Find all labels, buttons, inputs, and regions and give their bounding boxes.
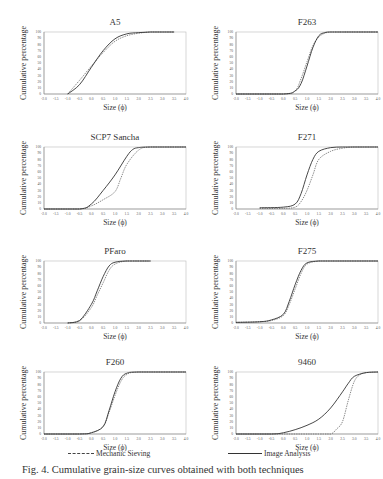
y-tick-label: 90: [37, 151, 41, 155]
chart-title: F275: [298, 246, 317, 256]
series-line-image-analysis: [260, 147, 378, 208]
y-tick-label: 70: [37, 389, 41, 393]
chart-title: F260: [106, 357, 125, 367]
x-tick-label: 0.5: [293, 326, 298, 330]
y-tick-label: 90: [37, 376, 41, 380]
x-tick-label: 0.0: [89, 437, 94, 441]
chart-title: 9460: [298, 357, 317, 367]
y-axis-label: Cumulative percentage: [211, 26, 220, 100]
y-tick-label: 10: [37, 315, 41, 319]
y-tick-label: 50: [37, 176, 41, 180]
series-line-mechanic-sieving: [236, 32, 378, 94]
x-tick-label: -1.5: [245, 326, 251, 330]
series-line-image-analysis: [236, 32, 378, 94]
x-tick-label: 1.5: [125, 97, 130, 101]
x-tick-label: -0.5: [77, 212, 83, 216]
x-tick-label: 4.0: [376, 326, 381, 330]
series-line-image-analysis: [68, 261, 151, 323]
x-tick-label: -0.5: [77, 326, 83, 330]
y-tick-label: 50: [37, 61, 41, 65]
x-tick-label: 3.5: [364, 212, 369, 216]
x-tick-label: 2.0: [328, 326, 333, 330]
x-tick-label: 0.0: [281, 212, 286, 216]
y-tick-label: 70: [229, 49, 233, 53]
x-tick-label: 3.0: [352, 97, 357, 101]
y-tick-label: 70: [229, 164, 233, 168]
series-line-mechanic-sieving: [236, 261, 378, 322]
y-tick-label: 60: [229, 395, 233, 399]
x-tick-label: 2.0: [136, 97, 141, 101]
x-tick-label: 0.0: [281, 326, 286, 330]
y-tick-label: 70: [37, 164, 41, 168]
y-axis-label: Cumulative percentage: [19, 141, 28, 215]
x-tick-label: 0.5: [293, 97, 298, 101]
y-tick-label: 90: [229, 376, 233, 380]
x-tick-label: 3.0: [352, 212, 357, 216]
x-tick-label: -1.0: [65, 97, 71, 101]
x-tick-label: 4.0: [184, 326, 189, 330]
chart-panel: F2750102030405060708090100-2.0-1.5-1.0-0…: [192, 229, 382, 343]
legend-label: Mechanic Sieving: [96, 449, 150, 458]
x-tick-label: -1.5: [245, 212, 251, 216]
y-tick-label: 60: [229, 55, 233, 59]
plot-frame: [44, 372, 186, 434]
y-axis-label: Cumulative percentage: [19, 255, 28, 329]
x-tick-label: -0.5: [269, 437, 275, 441]
y-tick-label: 60: [37, 284, 41, 288]
x-tick-label: 2.5: [148, 97, 153, 101]
y-tick-label: 60: [37, 170, 41, 174]
y-tick-label: 0: [39, 432, 41, 436]
x-tick-label: 2.5: [340, 326, 345, 330]
y-tick-label: 40: [37, 182, 41, 186]
y-tick-label: 80: [229, 383, 233, 387]
series-line-image-analysis: [236, 261, 378, 322]
x-tick-label: 1.5: [317, 212, 322, 216]
y-tick-label: 50: [229, 61, 233, 65]
x-tick-label: 1.5: [125, 212, 130, 216]
y-tick-label: 20: [37, 309, 41, 313]
chart-svg: F2750102030405060708090100-2.0-1.5-1.0-0…: [192, 229, 382, 343]
figure-caption: Fig. 4. Cumulative grain-size curves obt…: [22, 464, 304, 475]
solid-line-swatch: [228, 453, 262, 454]
x-tick-label: -2.0: [41, 212, 47, 216]
y-tick-label: 20: [37, 420, 41, 424]
x-tick-label: -2.0: [233, 326, 239, 330]
y-tick-label: 40: [37, 407, 41, 411]
x-tick-label: -1.5: [53, 97, 59, 101]
x-tick-label: 3.5: [172, 97, 177, 101]
x-tick-label: 1.5: [125, 437, 130, 441]
y-tick-label: 0: [231, 321, 233, 325]
x-tick-label: 0.5: [293, 212, 298, 216]
x-tick-label: 0.5: [293, 437, 298, 441]
x-tick-label: 2.0: [136, 437, 141, 441]
series-line-image-analysis: [44, 372, 186, 434]
x-tick-label: 4.0: [184, 437, 189, 441]
y-tick-label: 20: [229, 195, 233, 199]
series-line-mechanic-sieving: [260, 147, 378, 208]
y-tick-label: 100: [228, 30, 234, 34]
legend-mechanic-sieving: Mechanic Sieving: [68, 449, 150, 458]
y-tick-label: 10: [37, 201, 41, 205]
x-tick-label: -1.0: [257, 326, 263, 330]
y-tick-label: 80: [37, 383, 41, 387]
x-tick-label: 1.5: [317, 437, 322, 441]
x-tick-label: -0.5: [77, 437, 83, 441]
series-line-image-analysis: [236, 372, 378, 434]
y-tick-label: 30: [229, 303, 233, 307]
chart-svg: 94600102030405060708090100-2.0-1.5-1.0-0…: [192, 340, 382, 454]
y-tick-label: 30: [37, 414, 41, 418]
x-tick-label: -2.0: [41, 326, 47, 330]
y-tick-label: 20: [229, 420, 233, 424]
x-tick-label: -1.0: [65, 326, 71, 330]
x-tick-label: 0.0: [89, 326, 94, 330]
x-tick-label: 2.5: [340, 437, 345, 441]
chart-svg: F2600102030405060708090100-2.0-1.5-1.0-0…: [0, 340, 190, 454]
x-tick-label: -1.0: [257, 212, 263, 216]
y-axis-label: Cumulative percentage: [19, 366, 28, 440]
y-tick-label: 60: [229, 170, 233, 174]
x-tick-label: -1.0: [65, 212, 71, 216]
x-tick-label: 4.0: [184, 97, 189, 101]
x-tick-label: 1.0: [305, 326, 310, 330]
y-tick-label: 60: [37, 395, 41, 399]
y-axis-label: Cumulative percentage: [211, 141, 220, 215]
